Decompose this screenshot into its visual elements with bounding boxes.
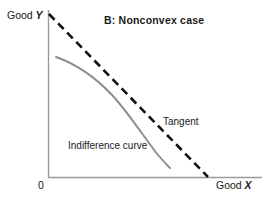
- nonconvex-indifference-curve-plot: [0, 0, 266, 199]
- tangent-annotation-label: Tangent: [163, 117, 199, 127]
- y-axis-label-text: Good: [7, 9, 36, 21]
- origin-label: 0: [38, 180, 44, 191]
- indifference-curve-path: [56, 57, 170, 168]
- indifference-curve-annotation-label: Indifference curve: [68, 141, 147, 151]
- figure-container: Good Y Good X 0 B: Nonconvex case Tangen…: [0, 0, 266, 199]
- x-axis-label-text: Good: [216, 179, 245, 191]
- x-axis-label: Good X: [216, 180, 252, 191]
- y-axis-label-symbol: Y: [36, 9, 43, 21]
- panel-title: B: Nonconvex case: [104, 15, 204, 26]
- y-axis-label: Good Y: [7, 10, 43, 21]
- tangent-line-path: [49, 14, 208, 177]
- x-axis-label-symbol: X: [245, 179, 252, 191]
